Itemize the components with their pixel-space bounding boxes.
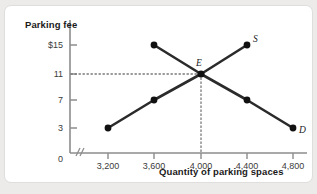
x-tick-label-4000: 4,000 (181, 161, 221, 171)
demand-curve (154, 45, 293, 128)
y-tick-label-15: $15 (23, 40, 63, 50)
y-tick-label-3: 3 (23, 123, 63, 133)
equilibrium-point-label: E (196, 58, 202, 68)
demand-curve-label: D (299, 125, 306, 135)
x-tick-label-4400: 4,400 (227, 161, 267, 171)
y-axis-title: Parking fee (25, 19, 77, 30)
equilibrium-marker (197, 70, 204, 77)
y-axis-ticks (70, 45, 77, 128)
figure-panel: Parking fee Quantity of parking spaces $… (4, 5, 313, 183)
x-tick-label-3600: 3,600 (134, 161, 174, 171)
supply-curve-label: S (253, 34, 258, 44)
y-tick-label-0: 0 (23, 154, 63, 164)
x-axis-ticks (108, 153, 293, 159)
y-tick-label-11: 11 (23, 69, 63, 79)
x-axis-break-mark (76, 148, 84, 156)
x-tick-label-4800: 4,800 (273, 161, 313, 171)
y-tick-label-7: 7 (23, 95, 63, 105)
x-tick-label-3200: 3,200 (88, 161, 128, 171)
supply-curve (108, 45, 247, 128)
